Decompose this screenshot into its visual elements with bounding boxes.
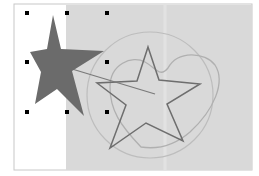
resize-handle-se[interactable] <box>105 110 109 114</box>
resize-handle-n[interactable] <box>65 11 69 15</box>
resize-handle-sw[interactable] <box>25 110 29 114</box>
resize-handle-s[interactable] <box>65 110 69 114</box>
resize-handle-nw[interactable] <box>25 11 29 15</box>
resize-handle-ne[interactable] <box>105 11 109 15</box>
gray-background-rect[interactable] <box>66 5 252 170</box>
drawing-canvas[interactable] <box>0 0 259 176</box>
resize-handle-e[interactable] <box>105 60 109 64</box>
resize-handle-w[interactable] <box>25 60 29 64</box>
